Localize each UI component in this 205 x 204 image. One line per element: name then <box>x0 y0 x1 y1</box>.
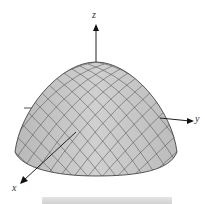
z-axis-arrow <box>93 24 99 31</box>
bottom-shadow-bar <box>42 197 172 204</box>
paraboloid-surface <box>0 62 200 196</box>
z-axis-label: z <box>92 9 96 20</box>
y-axis-arrow <box>187 118 194 124</box>
y-axis-label: y <box>195 113 199 124</box>
x-axis-label: x <box>12 182 16 193</box>
paraboloid-figure <box>0 0 205 204</box>
